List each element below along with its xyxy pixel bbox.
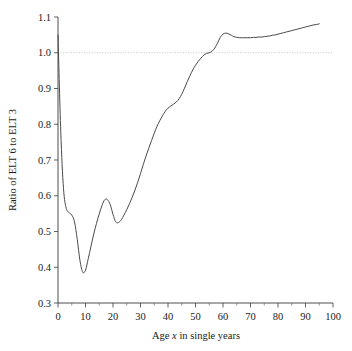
x-tick-label: 70 xyxy=(245,311,256,322)
x-tick-label: 20 xyxy=(108,311,119,322)
x-tick-label: 10 xyxy=(80,311,91,322)
x-tick-label: 60 xyxy=(218,311,229,322)
x-tick-label: 30 xyxy=(135,311,146,322)
y-axis-title: Ratio of ELT 6 to ELT 3 xyxy=(7,109,18,211)
y-tick-label: 0.9 xyxy=(38,83,51,94)
x-axis-title-suffix: in single years xyxy=(177,330,240,341)
x-tick-label: 0 xyxy=(55,311,60,322)
x-tick-group: 0102030405060708090100 xyxy=(55,303,341,322)
x-tick-label: 50 xyxy=(190,311,201,322)
y-tick-label: 0.4 xyxy=(38,262,52,273)
x-tick-label: 80 xyxy=(273,311,284,322)
ratio-line-chart: 0.30.40.50.60.70.80.91.01.1 010203040506… xyxy=(0,0,352,351)
y-tick-label: 0.6 xyxy=(38,190,51,201)
y-tick-label: 0.7 xyxy=(38,155,51,166)
x-tick-label: 100 xyxy=(325,311,341,322)
x-axis-title-prefix: Age xyxy=(152,330,172,341)
y-tick-label: 1.1 xyxy=(38,12,51,23)
y-tick-group: 0.30.40.50.60.70.80.91.01.1 xyxy=(38,12,58,309)
data-series-group xyxy=(58,24,319,273)
x-axis-title: Age x in single years xyxy=(152,330,240,341)
chart-plot-area: 0.30.40.50.60.70.80.91.01.1 010203040506… xyxy=(0,0,352,351)
y-tick-label: 1.0 xyxy=(38,47,51,58)
x-tick-label: 40 xyxy=(163,311,174,322)
y-tick-label: 0.5 xyxy=(38,226,51,237)
x-tick-label: 90 xyxy=(300,311,311,322)
y-tick-label: 0.8 xyxy=(38,119,51,130)
data-series-line xyxy=(58,24,319,273)
y-tick-label: 0.3 xyxy=(38,298,51,309)
